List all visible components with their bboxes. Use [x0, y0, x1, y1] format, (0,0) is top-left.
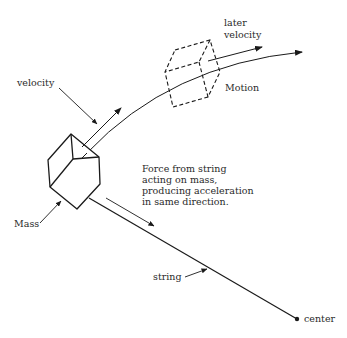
later-velocity-arrow [208, 47, 262, 61]
circular-motion-diagram: velocity later velocity Motion Mass stri… [0, 0, 347, 338]
mass-label: Mass [14, 218, 39, 229]
velocity-arrow [82, 108, 121, 147]
force-description-line2: acting on mass, [142, 174, 217, 185]
velocity-pointer [59, 88, 97, 124]
diagram-canvas: velocity later velocity Motion Mass stri… [0, 0, 347, 338]
force-description-line4: in same direction. [142, 196, 229, 207]
force-description-line3: producing acceleration [142, 185, 254, 196]
mass-cube [48, 134, 100, 209]
center-point [295, 317, 299, 321]
mass-pointer [40, 201, 61, 223]
later-velocity-label-line1: later [224, 17, 247, 28]
string-line [89, 198, 297, 319]
motion-path [87, 52, 302, 153]
motion-label: Motion [225, 82, 259, 93]
string-pointer [185, 269, 207, 277]
string-label: string [153, 271, 181, 282]
later-velocity-label-line2: velocity [223, 29, 262, 40]
force-description-line1: Force from string [142, 163, 227, 174]
velocity-label: velocity [16, 77, 55, 88]
center-label: center [304, 313, 336, 324]
later-position-cube [165, 40, 220, 107]
